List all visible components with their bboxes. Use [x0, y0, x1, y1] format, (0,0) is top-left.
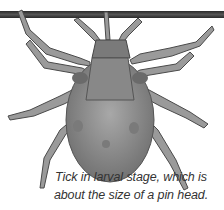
caption: Tick in larval stage, which is about the… — [40, 168, 222, 204]
caption-line-2: about the size of a pin head. — [40, 186, 222, 204]
caption-line-1: Tick in larval stage, which is — [40, 168, 222, 186]
